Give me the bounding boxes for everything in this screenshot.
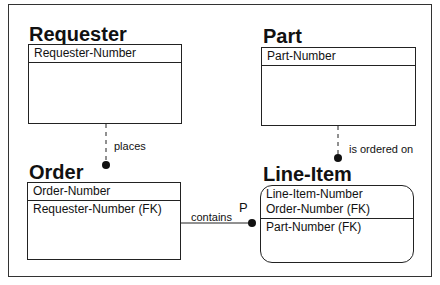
part-key: Part-Number (262, 48, 415, 66)
order-key: Order-Number (28, 183, 180, 201)
line-item-key-2: Order-Number (FK) (266, 202, 408, 217)
line-item-title: Line-Item (263, 164, 352, 184)
line-item-entity[interactable]: Line-Item-Number Order-Number (FK) Part-… (260, 185, 414, 263)
order-entity[interactable]: Order-Number Requester-Number (FK) (27, 182, 181, 260)
line-item-key-1: Line-Item-Number (266, 187, 408, 202)
places-dot (102, 161, 110, 169)
requester-title: Requester (29, 24, 127, 44)
contains-cardinality: P (239, 202, 248, 214)
part-entity[interactable]: Part-Number (261, 47, 416, 126)
requester-entity[interactable]: Requester-Number (28, 44, 182, 124)
order-title: Order (29, 162, 83, 182)
line-item-key: Line-Item-Number Order-Number (FK) (261, 186, 413, 219)
is-ordered-on-label: is ordered on (349, 143, 413, 155)
requester-key: Requester-Number (29, 45, 181, 63)
line-item-nonkey: Part-Number (FK) (261, 219, 413, 236)
places-label: places (114, 140, 146, 152)
is-ordered-on-dot (334, 154, 342, 162)
part-nonkey (262, 66, 415, 68)
requester-nonkey (29, 63, 181, 65)
part-title: Part (263, 26, 302, 46)
contains-label: contains (191, 211, 232, 223)
order-nonkey: Requester-Number (FK) (28, 201, 180, 218)
contains-dot (248, 219, 256, 227)
